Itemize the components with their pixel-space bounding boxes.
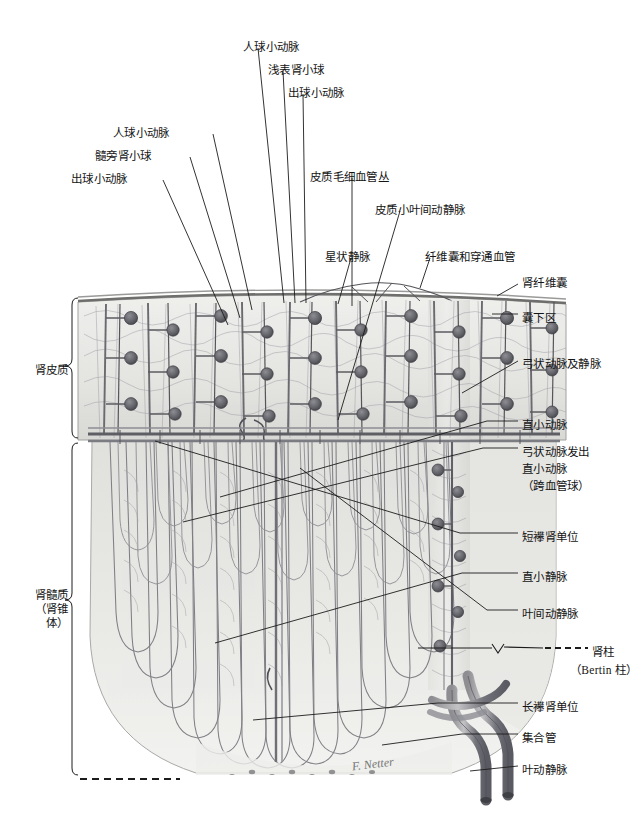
label-collecting-duct: 集合管: [522, 731, 556, 745]
leader-juxtamedullary-glomerulus: [190, 157, 240, 318]
label-renal-cortex: 肾皮质: [22, 363, 68, 377]
label-stellate-vein: 星状静脉: [325, 250, 370, 264]
label-arcuate-derived-vasa-recta-3: （跨血管球）: [522, 479, 590, 493]
label-afferent-arteriole-superficial: 人球小动脉: [243, 40, 300, 54]
label-juxtamedullary-glomerulus: 髓旁肾小球: [95, 149, 152, 163]
label-interlobar-vessels: 叶间动静脉: [522, 607, 579, 621]
label-cortical-capillary-plexus: 皮质毛细血管丛: [310, 170, 389, 184]
label-afferent-arteriole-juxta: 人球小动脉: [113, 126, 170, 140]
label-arcuate-derived-vasa-recta: 弓状动脉发出: [522, 445, 590, 459]
leader-afferent-arteriole-superficial: [258, 48, 284, 303]
leader-renal-fibrous-capsule: [497, 284, 518, 296]
label-arcuate-artery-vein: 弓状动脉及静脉: [522, 357, 601, 371]
label-long-loop-nephron: 长襻肾单位: [522, 700, 579, 714]
label-renal-medulla-line-0: 肾髓质: [22, 588, 68, 602]
label-renal-fibrous-capsule: 肾纤维囊: [522, 276, 567, 290]
label-superficial-glomerulus: 浅表肾小球: [268, 63, 325, 77]
label-efferent-arteriole-superficial: 出球小动脉: [288, 86, 345, 100]
label-renal-cortex-line-0: 肾皮质: [22, 363, 68, 377]
label-short-loop-nephron: 短襻肾单位: [522, 530, 579, 544]
label-arcuate-derived-vasa-recta-2: 直小动脉: [522, 462, 567, 476]
figure-canvas: 人球小动脉浅表肾小球出球小动脉人球小动脉髓旁肾小球出球小动脉皮质毛细血管丛皮质小…: [0, 0, 644, 837]
label-subcapsular-zone: 囊下区: [522, 311, 556, 325]
label-renal-column: 肾柱: [592, 645, 615, 659]
label-renal-medulla: 肾髓质（肾锥体）: [22, 588, 68, 630]
leader-superficial-glomerulus: [283, 71, 295, 303]
leader-efferent-arteriole-superficial: [303, 94, 306, 303]
label-lobar-artery-vein: 叶动静脉: [522, 763, 567, 777]
label-efferent-arteriole-juxta: 出球小动脉: [71, 172, 128, 186]
label-renal-medulla-line-1: （肾锥体）: [22, 602, 68, 630]
label-vasa-recta-venule: 直小静脉: [522, 570, 567, 584]
label-fibrous-capsule-perforating: 纤维囊和穿通血管: [425, 250, 515, 264]
label-cortical-interlobular-vessels: 皮质小叶间动静脉: [375, 203, 465, 217]
label-vasa-recta-arteriole: 直小动脉: [522, 418, 567, 432]
leader-afferent-arteriole-juxta: [213, 134, 252, 310]
label-renal-column-bertin: （Bertin 柱）: [570, 663, 638, 677]
